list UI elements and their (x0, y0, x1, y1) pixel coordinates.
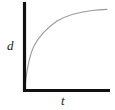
y-axis-label: d (7, 39, 14, 52)
plot-area (0, 0, 115, 110)
x-axis-label: t (61, 94, 65, 107)
distance-time-graph: d t (0, 0, 115, 110)
plot-background (0, 0, 115, 110)
